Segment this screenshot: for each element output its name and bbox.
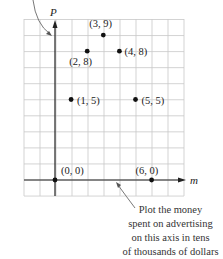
annotation-line: spent on advertising bbox=[118, 217, 223, 231]
data-point bbox=[85, 49, 90, 54]
data-point bbox=[101, 33, 106, 38]
data-point bbox=[133, 97, 138, 102]
point-label: (4, 8) bbox=[124, 46, 147, 58]
x-axis-arrow-icon bbox=[178, 178, 186, 183]
pointer-arrow-y bbox=[33, 0, 50, 34]
point-label: (3, 9) bbox=[89, 18, 112, 30]
x-axis bbox=[24, 178, 186, 183]
y-axis bbox=[53, 20, 58, 196]
annotation-line: of thousands of dollars bbox=[118, 245, 223, 259]
data-point bbox=[117, 49, 122, 54]
point-label: (1, 5) bbox=[77, 95, 100, 107]
data-points: (0, 0)(1, 5)(2, 8)(3, 9)(4, 8)(5, 5)(6, … bbox=[53, 18, 165, 182]
grid bbox=[24, 19, 184, 196]
annotation-line: Plot the money bbox=[118, 203, 223, 217]
y-axis-arrow-icon bbox=[53, 20, 58, 28]
data-point bbox=[69, 97, 74, 102]
y-axis-label: P bbox=[49, 6, 57, 18]
point-label: (5, 5) bbox=[142, 95, 165, 107]
point-label: (6, 0) bbox=[136, 165, 159, 177]
point-label: (0, 0) bbox=[61, 165, 84, 177]
x-axis-label: m bbox=[190, 174, 198, 186]
data-point bbox=[149, 178, 154, 183]
point-label: (2, 8) bbox=[69, 56, 92, 68]
annotation-line: on this axis in tens bbox=[118, 231, 223, 245]
data-point bbox=[53, 178, 58, 183]
axis-annotation: Plot the money spent on advertising on t… bbox=[118, 203, 223, 259]
